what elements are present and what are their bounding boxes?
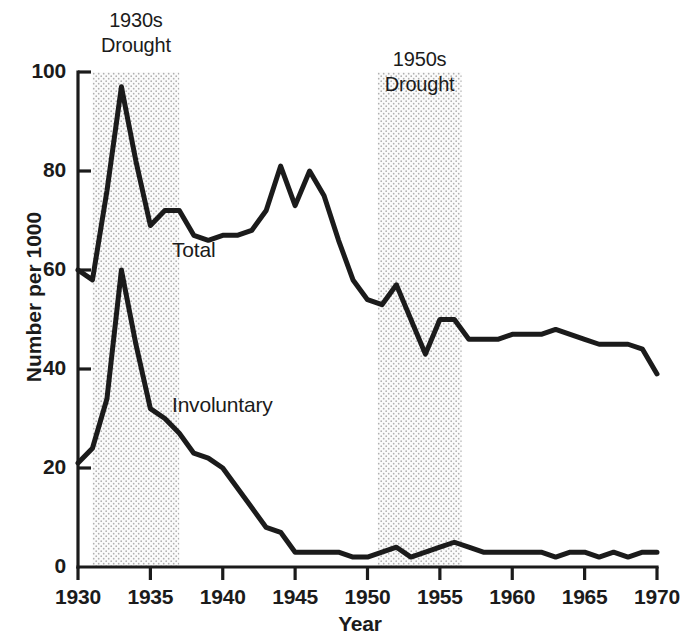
drought-1950s-label-line1: 1950s bbox=[360, 48, 480, 71]
y-tick-label-20: 20 bbox=[4, 455, 66, 479]
drought-1930s-label-line1: 1930s bbox=[76, 9, 196, 32]
drought-1930s-label-line2: Drought bbox=[76, 34, 196, 57]
series-label-total: Total bbox=[172, 238, 215, 262]
y-tick-label-100: 100 bbox=[4, 59, 66, 83]
x-axis-title: Year bbox=[330, 612, 390, 636]
drought-1950s-label-line2: Drought bbox=[360, 73, 480, 96]
x-tick-marks bbox=[78, 567, 657, 580]
chart-figure: 0 20 40 60 80 100 1930 1935 1940 1945 19… bbox=[0, 0, 696, 636]
x-tick-label-1970: 1970 bbox=[615, 585, 696, 609]
drought-shading-layer bbox=[92, 72, 461, 567]
y-axis-title: Number per 1000 bbox=[22, 212, 45, 382]
line-chart-canvas bbox=[0, 0, 696, 636]
drought-band-1930s bbox=[92, 72, 179, 567]
y-axis-title-wrapper: Number per 1000 bbox=[22, 177, 46, 417]
series-label-involuntary: Involuntary bbox=[172, 393, 273, 417]
y-tick-label-0: 0 bbox=[4, 554, 66, 578]
